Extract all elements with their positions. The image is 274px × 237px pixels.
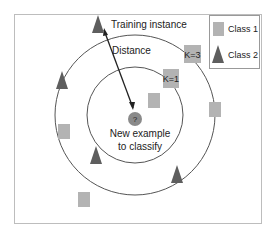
class1-square xyxy=(148,93,160,108)
legend-class1-swatch xyxy=(213,22,224,36)
legend: Class 1 Class 2 xyxy=(210,16,260,69)
class1-square xyxy=(209,102,221,117)
knn-diagram: ? K=3 K=1 Training instance Distance New… xyxy=(0,0,274,237)
distance-label: Distance xyxy=(112,45,151,56)
k1-label: K=1 xyxy=(163,74,179,84)
legend-class1-label: Class 1 xyxy=(228,24,258,34)
class1-square xyxy=(58,124,70,139)
new-example-label-line1: New example xyxy=(110,128,171,139)
new-example-label-line2: to classify xyxy=(118,141,162,152)
class1-square xyxy=(78,192,90,207)
k3-label: K=3 xyxy=(184,50,200,60)
legend-class2-label: Class 2 xyxy=(228,50,258,60)
query-mark: ? xyxy=(133,115,138,124)
training-instance-label: Training instance xyxy=(111,19,187,30)
